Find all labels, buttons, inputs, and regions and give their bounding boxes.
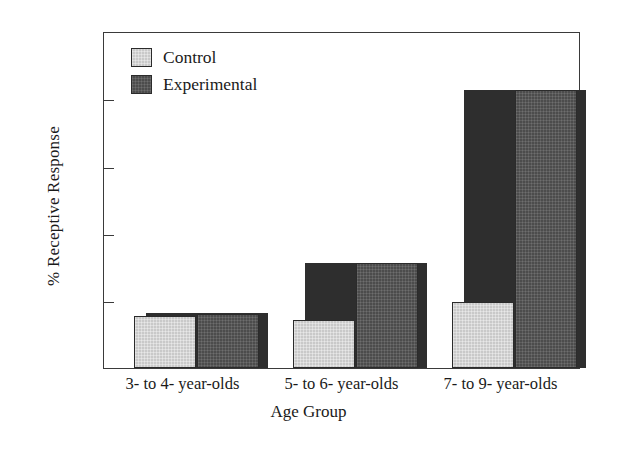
bar-experimental-group1 bbox=[197, 314, 259, 368]
x-tick-label-group3: 7- to 9- year-olds bbox=[421, 374, 580, 394]
bar-experimental-group3 bbox=[515, 90, 577, 368]
plot-area: Control Experimental bbox=[103, 32, 580, 369]
legend-entry-control: Control bbox=[131, 48, 257, 67]
bar-control-group2 bbox=[293, 320, 355, 368]
y-tick-mark-80 bbox=[104, 100, 114, 101]
legend-swatch-experimental-icon bbox=[131, 75, 152, 94]
bar-chart-figure: % Receptive Response 100 80 60 40 20 0 bbox=[0, 0, 617, 451]
legend-label-control: Control bbox=[163, 49, 216, 67]
x-tick-label-group1: 3- to 4- year-olds bbox=[103, 374, 262, 394]
y-axis-title: % Receptive Response bbox=[44, 56, 64, 356]
legend-entry-experimental: Experimental bbox=[131, 75, 257, 94]
x-axis-title: Age Group bbox=[0, 402, 617, 422]
bar-control-group1 bbox=[134, 316, 196, 368]
bar-experimental-group2 bbox=[356, 263, 418, 368]
bar-control-group3 bbox=[452, 302, 514, 368]
legend-swatch-control-icon bbox=[131, 48, 152, 67]
y-tick-mark-20 bbox=[104, 302, 114, 303]
x-tick-label-group2: 5- to 6- year-olds bbox=[262, 374, 421, 394]
y-tick-mark-40 bbox=[104, 235, 114, 236]
legend: Control Experimental bbox=[131, 48, 257, 102]
y-tick-mark-60 bbox=[104, 168, 114, 169]
legend-label-experimental: Experimental bbox=[163, 76, 257, 94]
